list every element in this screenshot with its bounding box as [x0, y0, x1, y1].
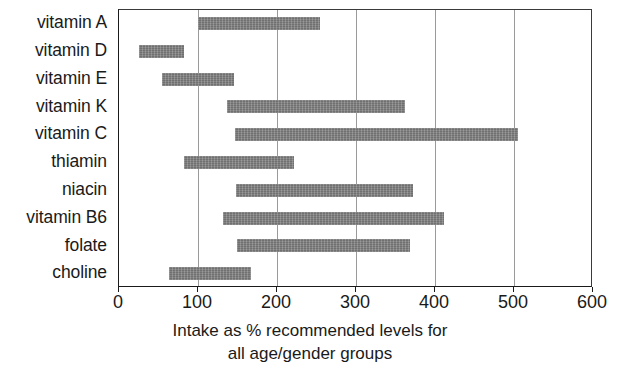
plot-area — [118, 9, 592, 287]
bar-row — [119, 232, 591, 260]
range-bar-folate — [237, 239, 410, 252]
x-axis-title: Intake as % recommended levels for all a… — [0, 320, 620, 365]
x-tick-label-500: 500 — [498, 293, 528, 311]
bar-row — [119, 260, 591, 288]
range-bar-vitamin-c — [235, 128, 518, 141]
y-axis-label-vitamin-e: vitamin E — [0, 65, 112, 93]
x-tick-label-0: 0 — [113, 293, 123, 311]
x-tick-label-400: 400 — [419, 293, 449, 311]
y-axis-label-folate: folate — [0, 231, 112, 259]
x-axis-title-line-2: all age/gender groups — [0, 343, 620, 366]
bar-row — [119, 177, 591, 205]
y-axis-label-vitamin-d: vitamin D — [0, 37, 112, 65]
x-tick-label-300: 300 — [340, 293, 370, 311]
bar-row — [119, 121, 591, 149]
bar-row — [119, 38, 591, 66]
y-axis-category-labels: vitamin A vitamin D vitamin E vitamin K … — [0, 9, 112, 287]
range-bar-chart: vitamin A vitamin D vitamin E vitamin K … — [0, 0, 620, 373]
range-bar-thiamin — [184, 156, 295, 169]
range-bar-vitamin-b6 — [223, 212, 444, 225]
bar-row — [119, 10, 591, 38]
range-bar-vitamin-a — [198, 17, 320, 30]
y-axis-label-vitamin-k: vitamin K — [0, 92, 112, 120]
bar-row — [119, 66, 591, 94]
y-axis-label-niacin: niacin — [0, 176, 112, 204]
y-axis-label-vitamin-a: vitamin A — [0, 9, 112, 37]
y-axis-label-thiamin: thiamin — [0, 148, 112, 176]
range-bar-vitamin-k — [227, 100, 405, 113]
range-bar-choline — [169, 267, 251, 280]
bar-row — [119, 149, 591, 177]
y-axis-label-vitamin-b6: vitamin B6 — [0, 204, 112, 232]
x-tick-label-600: 600 — [577, 293, 607, 311]
x-axis-tick-labels: 0100200300400500600 — [0, 293, 620, 317]
bar-row — [119, 93, 591, 121]
bars-layer — [119, 10, 591, 286]
range-bar-niacin — [236, 184, 413, 197]
range-bar-vitamin-d — [139, 45, 184, 58]
range-bar-vitamin-e — [162, 73, 233, 86]
x-axis-title-line-1: Intake as % recommended levels for — [0, 320, 620, 343]
x-tick-label-100: 100 — [182, 293, 212, 311]
bar-row — [119, 205, 591, 233]
y-axis-label-choline: choline — [0, 259, 112, 287]
x-tick-label-200: 200 — [261, 293, 291, 311]
y-axis-label-vitamin-c: vitamin C — [0, 120, 112, 148]
